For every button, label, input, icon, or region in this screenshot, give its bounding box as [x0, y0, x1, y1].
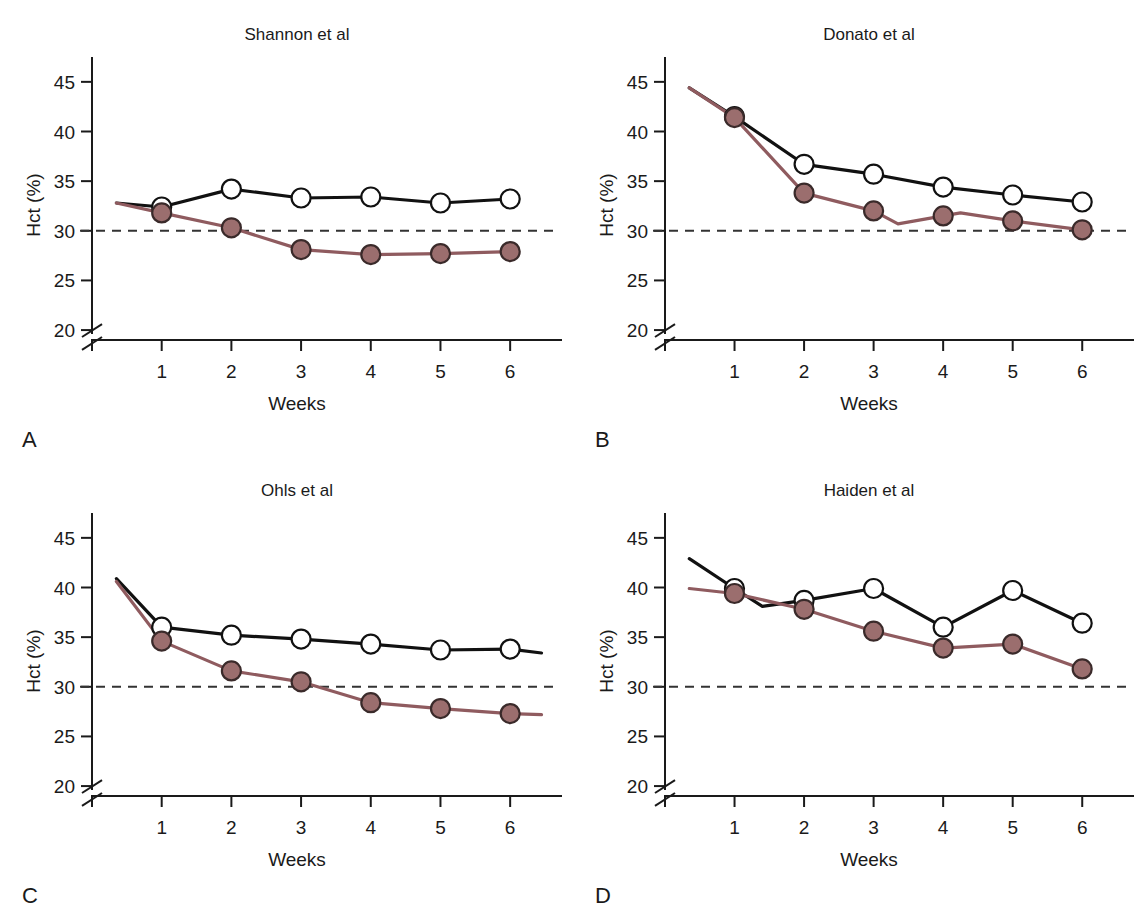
data-point-open-circle [292, 630, 311, 649]
series-line-control [116, 189, 510, 207]
data-point-open-circle [361, 635, 380, 654]
data-point-filled-circle [222, 661, 241, 680]
panel-d-chart: Haiden et al 202530354045123456 Weeks Hc… [573, 456, 1145, 912]
data-point-open-circle [431, 194, 450, 213]
data-point-filled-circle [501, 704, 520, 723]
x-tick-label: 4 [938, 817, 949, 838]
data-point-filled-circle [501, 242, 520, 261]
data-point-filled-circle [725, 584, 744, 603]
data-point-open-circle [361, 188, 380, 207]
x-tick-label: 3 [296, 817, 307, 838]
x-tick-label: 6 [505, 817, 516, 838]
y-tick-label: 25 [627, 726, 648, 747]
x-tick-label: 6 [1077, 817, 1088, 838]
data-point-filled-circle [222, 218, 241, 237]
panel-a-title: Shannon et al [245, 25, 350, 44]
y-tick-label: 35 [54, 627, 75, 648]
y-tick-label: 40 [54, 122, 75, 143]
x-tick-label: 2 [799, 361, 810, 382]
data-point-open-circle [501, 640, 520, 659]
y-tick-label: 45 [627, 528, 648, 549]
series-line-control [116, 579, 541, 653]
x-tick-label: 6 [505, 361, 516, 382]
x-tick-label: 2 [226, 817, 237, 838]
data-point-open-circle [222, 626, 241, 645]
panel-d-plot-area: 202530354045123456 [627, 514, 1133, 838]
y-tick-label: 20 [627, 320, 648, 341]
panel-c: Ohls et al 202530354045123456 Weeks Hct … [0, 456, 573, 912]
x-tick-label: 1 [729, 817, 740, 838]
panel-d-xaxis-title: Weeks [840, 849, 898, 870]
data-point-open-circle [795, 155, 814, 174]
data-point-open-circle [222, 180, 241, 199]
x-tick-label: 5 [435, 361, 446, 382]
y-tick-label: 25 [54, 270, 75, 291]
panel-a-letter: A [22, 427, 37, 452]
panel-d-yaxis-title: Hct (%) [596, 629, 617, 692]
x-tick-label: 1 [156, 817, 167, 838]
data-point-filled-circle [292, 240, 311, 259]
y-tick-label: 25 [54, 726, 75, 747]
data-point-filled-circle [795, 600, 814, 619]
panel-b-letter: B [595, 427, 610, 452]
y-tick-label: 20 [54, 776, 75, 797]
y-tick-label: 30 [627, 677, 648, 698]
y-tick-label: 40 [627, 122, 648, 143]
y-tick-label: 30 [627, 221, 648, 242]
x-tick-label: 2 [226, 361, 237, 382]
panel-a-plot-area: 202530354045123456 [54, 58, 561, 382]
data-point-filled-circle [431, 244, 450, 263]
x-tick-label: 5 [435, 817, 446, 838]
data-point-open-circle [501, 190, 520, 209]
panel-c-chart: Ohls et al 202530354045123456 Weeks Hct … [0, 456, 573, 912]
x-tick-label: 4 [365, 361, 376, 382]
data-point-open-circle [1073, 614, 1092, 633]
x-tick-label: 4 [938, 361, 949, 382]
x-tick-label: 5 [1007, 361, 1018, 382]
data-point-filled-circle [1003, 211, 1022, 230]
y-tick-label: 40 [627, 578, 648, 599]
data-point-open-circle [864, 165, 883, 184]
data-point-filled-circle [152, 203, 171, 222]
panel-d: Haiden et al 202530354045123456 Weeks Hc… [573, 456, 1145, 912]
data-point-filled-circle [1073, 659, 1092, 678]
data-point-filled-circle [292, 672, 311, 691]
data-point-open-circle [934, 618, 953, 637]
y-tick-label: 35 [54, 171, 75, 192]
panel-c-yaxis-title: Hct (%) [23, 629, 44, 692]
data-point-open-circle [1073, 193, 1092, 212]
data-point-filled-circle [725, 108, 744, 127]
figure-panel-grid: Shannon et al 202530354045123456 Weeks H… [0, 0, 1145, 912]
panel-b-chart: Donato et al 202530354045123456 Weeks Hc… [573, 0, 1145, 456]
panel-d-title: Haiden et al [824, 481, 915, 500]
panel-b: Donato et al 202530354045123456 Weeks Hc… [573, 0, 1145, 456]
panel-b-xaxis-title: Weeks [840, 393, 898, 414]
panel-b-title: Donato et al [823, 25, 915, 44]
panel-a-xaxis-title: Weeks [268, 393, 326, 414]
y-tick-label: 20 [627, 776, 648, 797]
y-tick-label: 45 [54, 72, 75, 93]
x-tick-label: 3 [868, 361, 879, 382]
panel-a-chart: Shannon et al 202530354045123456 Weeks H… [0, 0, 573, 456]
data-point-open-circle [1003, 581, 1022, 600]
panel-b-yaxis-title: Hct (%) [596, 173, 617, 236]
y-tick-label: 20 [54, 320, 75, 341]
x-tick-label: 3 [868, 817, 879, 838]
series-line-treatment [116, 203, 510, 255]
y-tick-label: 45 [54, 528, 75, 549]
data-point-filled-circle [864, 201, 883, 220]
y-tick-label: 40 [54, 578, 75, 599]
x-tick-label: 5 [1007, 817, 1018, 838]
x-tick-label: 6 [1077, 361, 1088, 382]
series-line-treatment [689, 88, 1082, 230]
x-tick-label: 1 [156, 361, 167, 382]
x-tick-label: 1 [729, 361, 740, 382]
data-point-filled-circle [864, 622, 883, 641]
data-point-filled-circle [431, 699, 450, 718]
data-point-filled-circle [795, 184, 814, 203]
x-tick-label: 3 [296, 361, 307, 382]
data-point-open-circle [864, 579, 883, 598]
y-tick-label: 30 [54, 677, 75, 698]
data-point-filled-circle [1073, 220, 1092, 239]
data-point-filled-circle [934, 639, 953, 658]
